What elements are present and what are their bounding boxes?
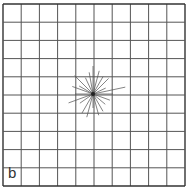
starburst-ray <box>93 87 125 94</box>
starburst-ray <box>82 94 93 113</box>
panel-label: b <box>8 165 16 180</box>
grid-figure <box>0 0 188 189</box>
starburst-rays <box>69 66 126 117</box>
starburst-center <box>91 92 95 96</box>
